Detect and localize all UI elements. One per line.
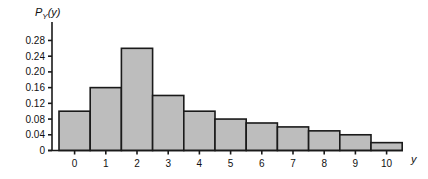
probability-bar-chart: PY(y) 00.040.080.120.160.200.240.28 0123… <box>0 0 428 179</box>
bar-3 <box>153 95 184 150</box>
y-tick-label: 0.04 <box>26 129 46 140</box>
bar-8 <box>309 131 340 151</box>
x-tick-label: 9 <box>353 158 359 169</box>
bar-4 <box>184 111 215 150</box>
x-axis-ticks: 012345678910 <box>72 151 393 169</box>
bar-0 <box>59 111 90 150</box>
bars <box>59 48 402 150</box>
x-tick-label: 10 <box>381 158 393 169</box>
y-axis-ticks: 00.040.080.120.160.200.240.28 <box>26 35 52 156</box>
x-tick-label: 6 <box>259 158 265 169</box>
bar-6 <box>246 123 277 151</box>
x-tick-label: 5 <box>228 158 234 169</box>
x-axis-title: y <box>410 153 418 165</box>
x-tick-label: 4 <box>197 158 203 169</box>
bar-1 <box>90 88 121 151</box>
y-tick-label: 0 <box>39 145 45 156</box>
x-tick-label: 7 <box>290 158 296 169</box>
y-tick-label: 0.20 <box>26 66 46 77</box>
x-tick-label: 3 <box>165 158 171 169</box>
y-tick-label: 0.24 <box>26 51 46 62</box>
x-tick-label: 8 <box>321 158 327 169</box>
bar-9 <box>340 135 371 151</box>
y-axis-title: PY(y) <box>35 6 61 21</box>
bar-10 <box>371 143 402 151</box>
bar-5 <box>215 119 246 150</box>
x-tick-label: 1 <box>103 158 109 169</box>
x-tick-label: 2 <box>134 158 140 169</box>
bar-2 <box>121 48 152 150</box>
y-tick-label: 0.08 <box>26 114 46 125</box>
x-tick-label: 0 <box>72 158 78 169</box>
y-tick-label: 0.28 <box>26 35 46 46</box>
bar-7 <box>277 127 308 151</box>
y-tick-label: 0.16 <box>26 82 46 93</box>
y-tick-label: 0.12 <box>26 98 46 109</box>
